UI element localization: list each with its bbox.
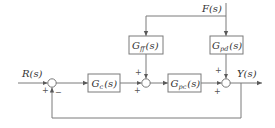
- sum3-plus-top-sign: +: [215, 66, 222, 75]
- sum1-plus-sign: +: [42, 86, 49, 95]
- feedback-wire: [52, 83, 241, 118]
- sum2-plus-top-sign: +: [135, 68, 142, 77]
- sum3-plus-left-sign: +: [214, 87, 221, 96]
- sum1-minus-sign: −: [55, 88, 62, 97]
- input-label: R(s): [21, 68, 43, 79]
- output-label: Y(s): [237, 68, 257, 79]
- disturbance-label: F(s): [201, 3, 222, 14]
- summing-junction-1: [48, 79, 56, 87]
- summing-junction-3: [222, 79, 230, 87]
- sum2-plus-left-sign: +: [134, 86, 141, 95]
- summing-junction-2: [142, 79, 150, 87]
- block-diagram: R(s) + − Gc(s) + + Gpc(s) + + Y(s) F(s) …: [0, 0, 275, 128]
